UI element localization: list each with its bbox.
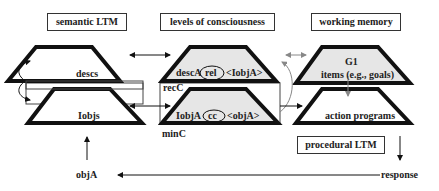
arrow-cc-to-rel bbox=[280, 62, 292, 112]
label-items-goals: items (e.g., goals) bbox=[321, 69, 394, 80]
header-levels-of-consciousness: levels of consciousness bbox=[160, 13, 275, 31]
semantic-ltm-stack bbox=[8, 47, 143, 123]
label-rel: rel bbox=[205, 67, 216, 78]
label-descs: descs bbox=[76, 68, 98, 79]
box-procedural-ltm: procedural LTM bbox=[297, 136, 385, 154]
label-g1: G1 bbox=[345, 56, 358, 67]
label-action-programs: action programs bbox=[325, 110, 395, 121]
label-recc: recC bbox=[163, 82, 183, 93]
label-desca: descA bbox=[176, 67, 202, 78]
label-iobja: IobjA bbox=[176, 110, 201, 121]
header-working-memory: working memory bbox=[311, 13, 401, 31]
label-minc: minC bbox=[162, 128, 186, 139]
arrow-semantic-loop-down bbox=[19, 82, 30, 100]
label-cc: cc bbox=[208, 110, 217, 121]
label-obja-ref: <objA> bbox=[227, 110, 260, 121]
label-iobja-ref: <IobjA> bbox=[226, 67, 262, 78]
header-semantic-ltm: semantic LTM bbox=[47, 13, 127, 31]
label-response: response bbox=[381, 169, 418, 180]
label-obja: objA bbox=[76, 169, 97, 180]
label-iobjs: Iobjs bbox=[78, 110, 100, 121]
